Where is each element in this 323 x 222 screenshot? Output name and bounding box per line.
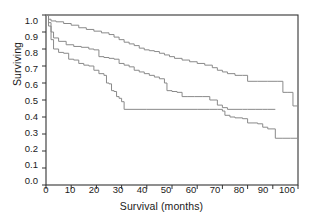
y-tick-marks bbox=[42, 15, 46, 185]
plot-frame bbox=[46, 15, 298, 185]
survival-curves bbox=[46, 15, 298, 138]
survival-curve-figure: Surviving 1.0 0.9 0.8 0.7 0.6 0.5 0.4 0.… bbox=[0, 0, 323, 222]
survival-curve-line bbox=[46, 15, 275, 109]
axis-frame bbox=[42, 15, 298, 189]
x-tick-marks bbox=[46, 185, 298, 189]
plot-area bbox=[0, 0, 323, 222]
survival-curve-line bbox=[46, 15, 298, 138]
x-axis-title: Survival (months) bbox=[0, 200, 323, 212]
survival-curve-line bbox=[46, 15, 298, 106]
